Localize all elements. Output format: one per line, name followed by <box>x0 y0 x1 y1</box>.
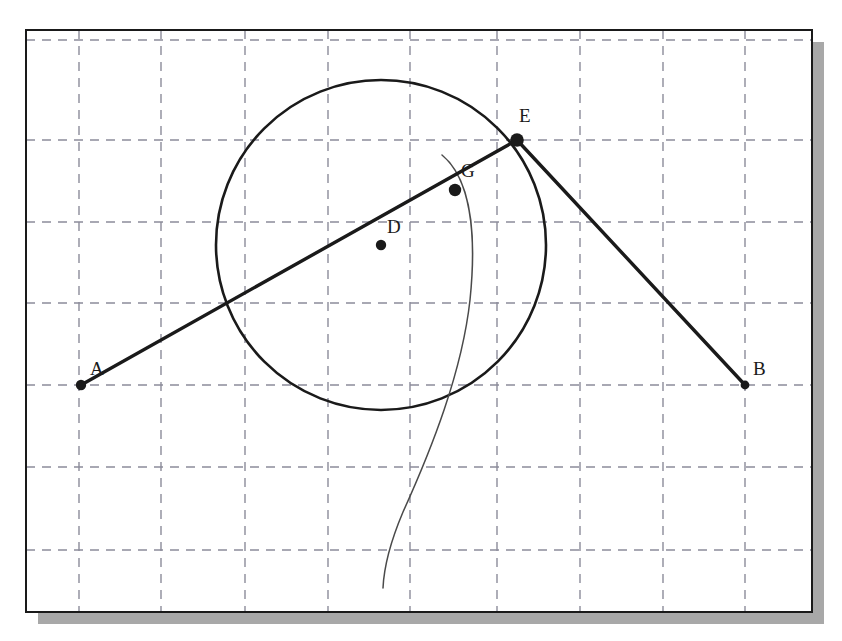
frame-rect <box>26 30 812 612</box>
point-d-dot <box>376 240 386 250</box>
point-g-label: G <box>461 160 475 181</box>
point-e-label: E <box>519 105 531 126</box>
point-b-label: B <box>753 358 766 379</box>
point-a-dot <box>76 380 86 390</box>
geometry-drawing: ADGEB <box>0 0 842 641</box>
figure-canvas: ADGEB <box>0 0 842 641</box>
point-d-label: D <box>387 216 401 237</box>
frame-border <box>26 30 812 612</box>
point-g-dot <box>449 184 461 196</box>
point-e-dot <box>510 133 524 147</box>
point-b-dot <box>741 381 750 390</box>
point-a-label: A <box>90 358 104 379</box>
